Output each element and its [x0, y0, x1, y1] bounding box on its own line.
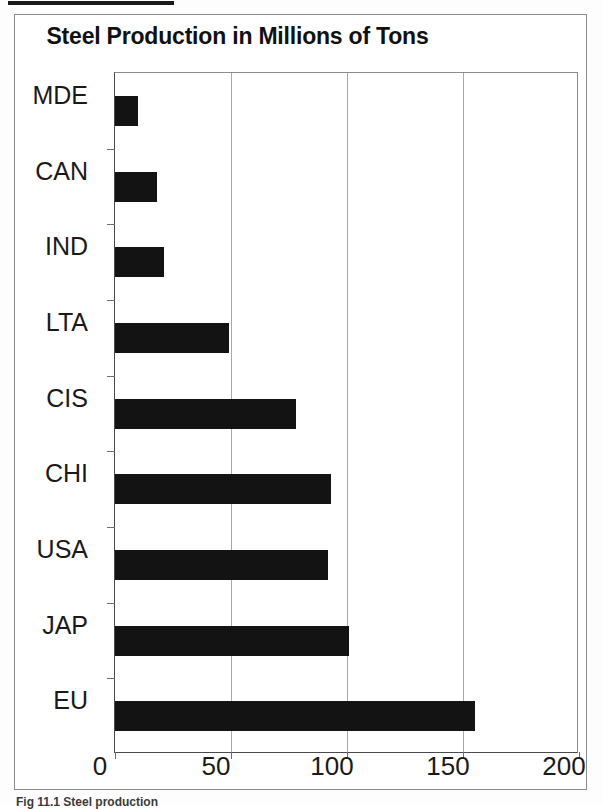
axis-label-y: CAN: [15, 159, 88, 184]
figure-caption: Fig 11.1 Steel production: [16, 795, 158, 809]
bar: [115, 96, 138, 126]
bar: [115, 247, 164, 277]
gridline-x: [463, 73, 464, 752]
bar: [115, 399, 296, 429]
axis-label-y: CIS: [15, 386, 88, 411]
axis-label-y: IND: [15, 234, 88, 259]
bar: [115, 701, 475, 731]
axis-label-y: MDE: [15, 83, 88, 108]
axis-tick-y: [107, 527, 115, 528]
plot-area: [114, 72, 578, 753]
axis-label-x: 50: [156, 753, 276, 779]
axis-tick-y: [107, 678, 115, 679]
axis-label-y: CHI: [15, 461, 88, 486]
axis-label-y: LTA: [15, 310, 88, 335]
page-top-rule: [8, 1, 174, 5]
axis-label-x: 100: [272, 753, 392, 779]
axis-tick-y: [107, 300, 115, 301]
bar: [115, 474, 331, 504]
bar: [115, 550, 328, 580]
axis-label-y: USA: [15, 537, 88, 562]
bar: [115, 323, 229, 353]
bar: [115, 626, 349, 656]
chart-frame: Steel Production in Millions of Tons 050…: [14, 14, 587, 790]
axis-label-x: 150: [388, 753, 508, 779]
axis-label-x: 0: [40, 753, 160, 779]
axis-tick-y: [107, 451, 115, 452]
axis-label-y: EU: [15, 688, 88, 713]
axis-tick-y: [107, 603, 115, 604]
axis-tick-y: [107, 149, 115, 150]
axis-label-x: 200: [504, 753, 603, 779]
axis-label-y: JAP: [15, 613, 88, 638]
axis-tick-y: [107, 224, 115, 225]
chart-title: Steel Production in Millions of Tons: [15, 23, 460, 50]
bar: [115, 172, 157, 202]
axis-tick-y: [107, 376, 115, 377]
